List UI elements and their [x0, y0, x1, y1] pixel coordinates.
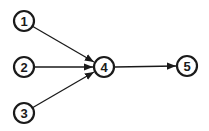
node-1-label: 1 — [20, 14, 27, 29]
node-5: 5 — [177, 56, 197, 76]
node-2-label: 2 — [20, 60, 27, 75]
node-5-label: 5 — [183, 59, 190, 74]
node-3-label: 3 — [20, 106, 27, 121]
network-diagram: 1 2 3 4 5 — [0, 0, 209, 131]
node-3: 3 — [14, 103, 34, 123]
node-4: 4 — [94, 57, 114, 77]
node-2: 2 — [14, 57, 34, 77]
node-4-label: 4 — [100, 60, 108, 75]
edge-4-5 — [115, 66, 176, 67]
node-1: 1 — [14, 11, 34, 31]
edge-3-4 — [32, 72, 94, 108]
edge-1-4 — [32, 26, 94, 62]
